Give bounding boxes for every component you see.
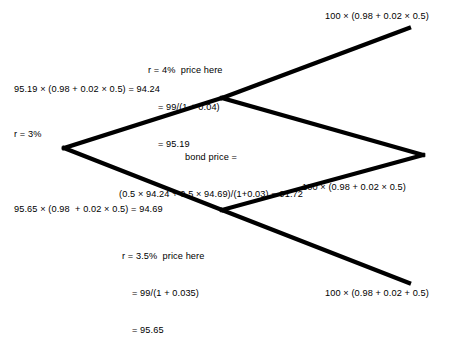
down-node-rate-line: r = 3.5% price here bbox=[122, 250, 204, 262]
down-node-annotation: r = 3.5% price here = 99/(1 + 0.035) = 9… bbox=[122, 226, 204, 337]
bond-price-formula: (0.5 × 94.24 + 0.5 × 94.69)/(1+0.03) = 9… bbox=[86, 188, 336, 200]
root-rate-label: r = 3% bbox=[14, 129, 41, 141]
terminal-payoff-middle: 100 × (0.98 + 0.02 × 0.5) bbox=[302, 182, 406, 194]
down-node-formula-line: = 99/(1 + 0.035) bbox=[122, 287, 204, 299]
down-node-discounted-value: 95.65 × (0.98 + 0.02 × 0.5) = 94.69 bbox=[14, 204, 163, 216]
up-node-formula-line: = 99/(1 + 0.04) bbox=[148, 101, 223, 113]
down-node-result-line: = 95.65 bbox=[122, 324, 204, 336]
bond-price-title: bond price = bbox=[86, 151, 336, 163]
up-node-rate-line: r = 4% price here bbox=[148, 64, 223, 76]
terminal-payoff-top: 100 × (0.98 + 0.02 × 0.5) bbox=[325, 11, 429, 23]
terminal-payoff-bottom: 100 × (0.98 + 0.02 + 0.5) bbox=[325, 288, 429, 300]
branch-up-to-terminal-top bbox=[222, 28, 409, 98]
up-node-discounted-value: 95.19 × (0.98 + 0.02 × 0.5) = 94.24 bbox=[14, 84, 160, 96]
